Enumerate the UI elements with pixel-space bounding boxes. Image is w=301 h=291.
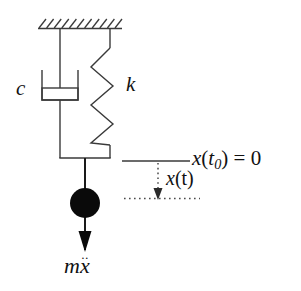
point-mass [70, 188, 100, 218]
damper-piston [42, 88, 78, 100]
displacement-variable: x [166, 167, 175, 189]
initial-position-equals: = 0 [228, 146, 261, 170]
double-dot-icon: ‥ [81, 250, 90, 261]
inertia-acceleration-symbol: x‥ [80, 255, 90, 277]
dashpot-damper [42, 28, 78, 158]
spring-zigzag [91, 48, 113, 145]
inertia-mass-symbol: m [64, 253, 80, 278]
spring-constant-label: k [126, 74, 135, 95]
initial-position-label: x(t0) = 0 [192, 148, 261, 171]
ceiling-hatching [39, 19, 122, 28]
displacement-label: x(t) [166, 168, 194, 188]
inertia-force-label: mx‥ [64, 255, 90, 277]
coil-spring [91, 28, 113, 158]
displacement-arrow [154, 163, 163, 200]
damper-coefficient-label: c [16, 78, 25, 99]
fixed-support-ceiling [38, 19, 122, 29]
mass-assembly [70, 158, 100, 252]
displacement-argument: (t) [175, 167, 194, 189]
mass-spring-damper-figure: c k x(t0) = 0 x(t) mx‥ [0, 0, 301, 291]
